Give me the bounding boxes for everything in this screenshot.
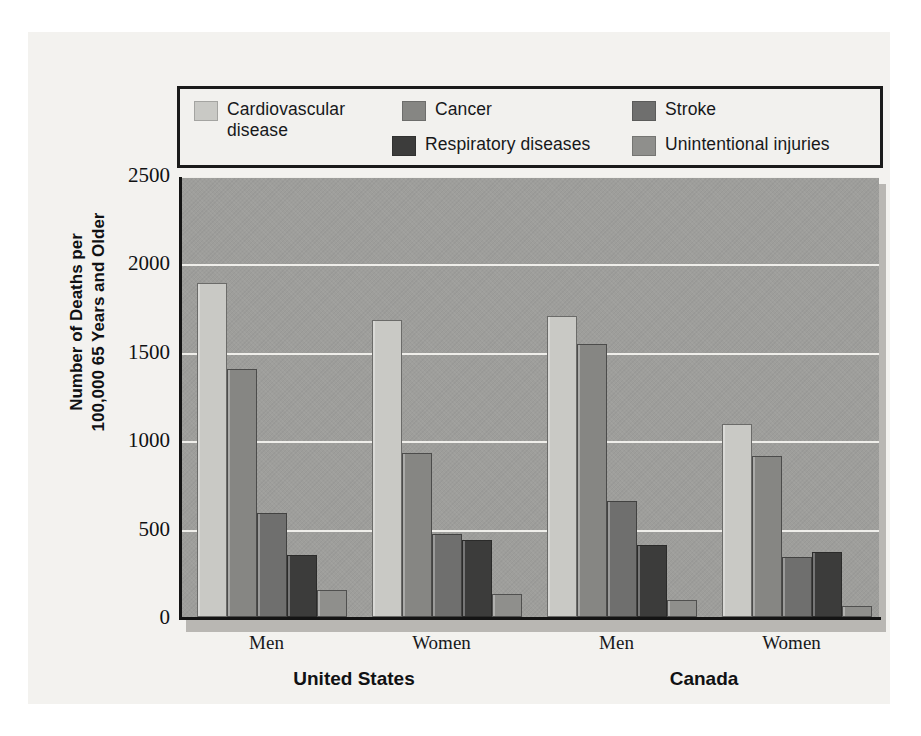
legend-label-respiratory-diseases: Respiratory diseases <box>425 134 590 155</box>
legend-item-stroke: Stroke <box>632 99 812 121</box>
bar-canada-men-respiratory-diseases <box>637 545 667 617</box>
legend-item-respiratory-diseases: Respiratory diseases <box>392 134 632 156</box>
bar-united-states-men-stroke <box>257 513 287 617</box>
bar-united-states-women-unintentional-injuries <box>492 594 522 617</box>
bar-canada-men-cardiovascular-disease <box>547 316 577 617</box>
bar-united-states-men-unintentional-injuries <box>317 590 347 617</box>
legend-label-cardiovascular-disease: Cardiovascular disease <box>227 99 345 141</box>
bar-canada-women-stroke <box>782 557 812 617</box>
x-tick-label-2: Men <box>557 632 677 654</box>
group-label-canada: Canada <box>604 668 804 690</box>
legend-swatch-stroke <box>632 101 656 121</box>
bar-united-states-men-respiratory-diseases <box>287 555 317 617</box>
chart-legend: Cardiovascular disease Cancer Stroke Res… <box>177 86 883 168</box>
bar-united-states-women-respiratory-diseases <box>462 540 492 617</box>
legend-swatch-cardiovascular-disease <box>194 101 218 121</box>
y-tick-500: 500 <box>96 517 170 542</box>
plot-area <box>179 177 879 619</box>
x-axis-line <box>179 617 881 620</box>
x-tick-label-1: Women <box>382 632 502 654</box>
legend-swatch-unintentional-injuries <box>632 136 656 156</box>
legend-swatch-cancer <box>402 101 426 121</box>
bar-united-states-women-stroke <box>432 534 462 617</box>
bar-united-states-women-cancer <box>402 453 432 617</box>
x-tick-label-3: Women <box>732 632 852 654</box>
bars-layer <box>181 177 879 617</box>
y-axis-line <box>179 177 182 620</box>
bar-united-states-women-cardiovascular-disease <box>372 320 402 617</box>
bar-canada-women-unintentional-injuries <box>842 606 872 617</box>
bar-canada-women-cancer <box>752 456 782 617</box>
x-tick-label-0: Men <box>207 632 327 654</box>
legend-swatch-respiratory-diseases <box>392 136 416 156</box>
chart-figure: Cardiovascular disease Cancer Stroke Res… <box>0 0 921 736</box>
bar-canada-women-cardiovascular-disease <box>722 424 752 617</box>
bar-united-states-men-cancer <box>227 369 257 617</box>
legend-item-cancer: Cancer <box>402 99 592 121</box>
legend-label-unintentional-injuries: Unintentional injuries <box>665 134 830 155</box>
y-tick-0: 0 <box>96 605 170 630</box>
y-axis-title: Number of Deaths per 100,000 65 Years an… <box>66 172 110 472</box>
legend-label-cancer: Cancer <box>435 99 492 120</box>
bar-canada-men-stroke <box>607 501 637 617</box>
bar-canada-men-cancer <box>577 344 607 617</box>
legend-item-cardiovascular-disease: Cardiovascular disease <box>194 99 394 141</box>
bar-united-states-men-cardiovascular-disease <box>197 283 227 617</box>
legend-label-stroke: Stroke <box>665 99 716 120</box>
group-label-united-states: United States <box>254 668 454 690</box>
bar-canada-men-unintentional-injuries <box>667 600 697 617</box>
legend-item-unintentional-injuries: Unintentional injuries <box>632 134 882 156</box>
bar-canada-women-respiratory-diseases <box>812 552 842 617</box>
